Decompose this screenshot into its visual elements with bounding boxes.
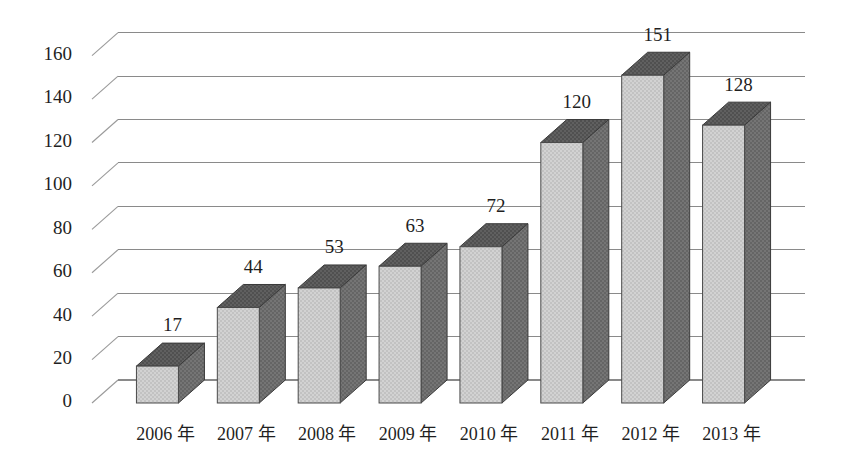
x-tick-label: 2008 年 (298, 424, 357, 444)
x-tick-label: 2009 年 (379, 424, 438, 444)
chart-container: 020406080100120140160 174453637212015112… (0, 0, 843, 470)
x-tick-label: 2007 年 (217, 424, 276, 444)
bar-2013[interactable] (703, 102, 771, 403)
x-tick-label: 2006 年 (136, 424, 195, 444)
bar-chart-3d: 020406080100120140160 174453637212015112… (0, 0, 843, 470)
y-tick-label: 20 (53, 347, 72, 368)
data-label-2006: 17 (163, 314, 182, 335)
data-label-2008: 53 (325, 236, 344, 257)
y-tick-label: 80 (53, 217, 72, 238)
data-label-2011: 120 (563, 91, 592, 112)
x-tick-label: 2013 年 (702, 424, 761, 444)
y-tick-label: 40 (53, 304, 72, 325)
x-tick-label: 2011 年 (541, 424, 599, 444)
bar-2008[interactable] (298, 265, 366, 403)
y-tick-label: 60 (53, 260, 72, 281)
y-tick-label: 100 (44, 173, 73, 194)
bar-2009[interactable] (379, 243, 447, 403)
data-label-2013: 128 (724, 74, 753, 95)
data-label-2010: 72 (486, 195, 505, 216)
data-label-2012: 151 (643, 24, 672, 45)
y-tick-label: 120 (44, 130, 73, 151)
bar-2007[interactable] (217, 284, 285, 403)
y-tick-label: 160 (44, 43, 73, 64)
y-tick-label: 140 (44, 86, 73, 107)
y-tick-label: 0 (63, 390, 73, 411)
x-tick-label: 2012 年 (621, 424, 680, 444)
bar-2011[interactable] (541, 120, 609, 403)
bar-2010[interactable] (460, 224, 528, 403)
data-label-2009: 63 (406, 215, 425, 236)
data-label-2007: 44 (244, 256, 264, 277)
bar-2012[interactable] (622, 52, 690, 403)
x-tick-label: 2010 年 (460, 424, 519, 444)
